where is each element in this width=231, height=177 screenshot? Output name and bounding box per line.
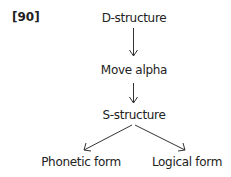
arrow-d-to-move [130, 28, 138, 56]
arrow-s-to-pf [84, 125, 132, 151]
arrow-s-to-lf [135, 125, 185, 151]
diagram-arrows [0, 0, 231, 177]
arrow-move-to-s [130, 83, 138, 103]
